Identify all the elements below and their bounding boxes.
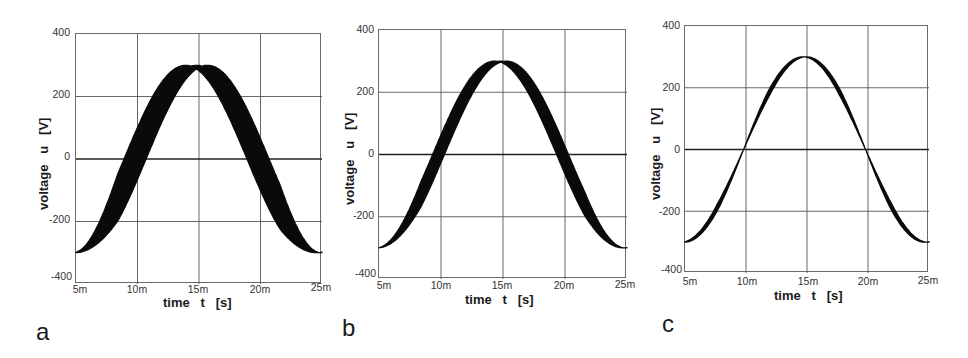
panel-letter-c: c: [662, 310, 674, 338]
y-axis-label-c: voltage u [V]: [648, 108, 663, 200]
y-tick-neg200: -200: [646, 205, 680, 217]
x-tick-10m: 10m: [729, 275, 765, 287]
x-tick-5m: 5m: [672, 275, 708, 287]
x-tick-15m: 15m: [790, 275, 826, 287]
x-axis-label-c: time t [s]: [774, 288, 843, 303]
y-tick-200: 200: [646, 81, 680, 93]
x-tick-25m: 25m: [910, 274, 946, 286]
chart-panel-c: 400 200 0 -200 -400 5m 10m 15m 20m 25m t…: [0, 0, 968, 358]
y-tick-neg400: -400: [648, 263, 682, 275]
plot-area-c: [684, 25, 928, 272]
plot-svg-c: [685, 26, 929, 273]
y-tick-400: 400: [646, 19, 680, 31]
x-tick-20m: 20m: [850, 275, 886, 287]
